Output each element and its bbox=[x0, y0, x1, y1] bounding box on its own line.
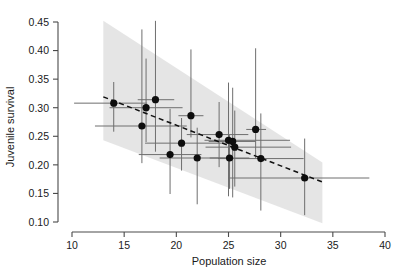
data-point bbox=[231, 144, 238, 151]
data-point bbox=[138, 122, 145, 129]
confidence-band bbox=[103, 21, 322, 223]
data-point bbox=[187, 112, 194, 119]
data-point bbox=[216, 131, 223, 138]
y-axis-tick-label: 0.20 bbox=[29, 159, 50, 171]
data-point bbox=[110, 100, 117, 107]
scatter-plot-figure: 0.100.150.200.250.300.350.400.4510152025… bbox=[0, 0, 414, 272]
data-point bbox=[152, 96, 159, 103]
data-point bbox=[178, 140, 185, 147]
x-axis-tick-label: 40 bbox=[379, 239, 391, 251]
x-axis-tick-label: 20 bbox=[170, 239, 182, 251]
data-point bbox=[301, 174, 308, 181]
y-axis-tick-label: 0.15 bbox=[29, 187, 50, 199]
data-point bbox=[166, 151, 173, 158]
confidence-band-polygon bbox=[103, 21, 322, 223]
y-axis-tick-label: 0.35 bbox=[29, 73, 50, 85]
y-axis-tick-label: 0.45 bbox=[29, 16, 50, 28]
data-point bbox=[194, 154, 201, 161]
x-axis-tick-label: 30 bbox=[275, 239, 287, 251]
y-axis-tick-label: 0.25 bbox=[29, 130, 50, 142]
data-point bbox=[226, 154, 233, 161]
y-axis-tick-label: 0.10 bbox=[29, 216, 50, 228]
x-axis-tick-label: 10 bbox=[66, 239, 78, 251]
data-point bbox=[142, 104, 149, 111]
x-axis-title: Population size bbox=[192, 255, 267, 267]
y-axis-title: Juvenile survival bbox=[4, 87, 16, 168]
y-axis-tick-label: 0.30 bbox=[29, 102, 50, 114]
x-axis-tick-label: 15 bbox=[118, 239, 130, 251]
y-axis-tick-label: 0.40 bbox=[29, 44, 50, 56]
plot-canvas: 0.100.150.200.250.300.350.400.4510152025… bbox=[0, 0, 414, 272]
data-point bbox=[252, 126, 259, 133]
x-axis-tick-label: 35 bbox=[327, 239, 339, 251]
data-point bbox=[257, 155, 264, 162]
x-axis-tick-label: 25 bbox=[223, 239, 235, 251]
